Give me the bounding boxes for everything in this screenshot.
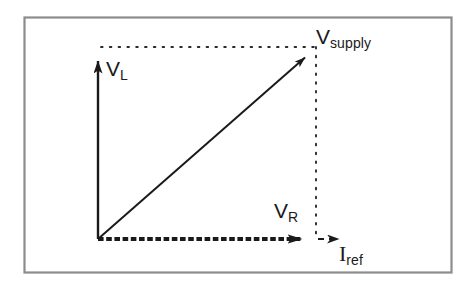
label-v-supply-base: V [316, 25, 330, 48]
label-v-supply-sub: supply [330, 35, 371, 51]
label-v-l: VL [106, 58, 128, 79]
label-i-ref-sub: ref [346, 252, 363, 268]
label-v-r-sub: R [288, 209, 298, 225]
label-v-supply: Vsupply [316, 26, 371, 47]
phasor-diagram-canvas [0, 0, 473, 284]
figure-border [25, 18, 452, 273]
label-v-l-sub: L [120, 67, 128, 83]
label-i-ref: Iref [339, 243, 363, 265]
label-v-r-base: V [274, 199, 288, 222]
label-v-l-base: V [106, 57, 120, 80]
phasor-diagram-figure: Vsupply VL VR Iref [0, 0, 473, 284]
label-v-r: VR [274, 200, 298, 221]
